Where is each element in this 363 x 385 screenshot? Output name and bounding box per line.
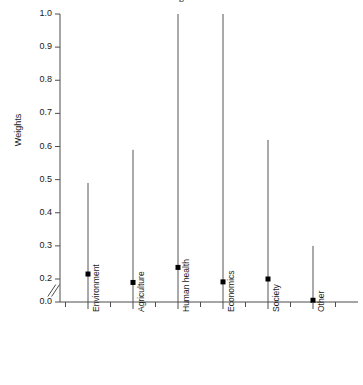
y-tick-label: 0.6 bbox=[26, 142, 52, 151]
y-tick-label: 0.4 bbox=[26, 208, 52, 217]
data-point-marker-1[interactable] bbox=[131, 280, 136, 285]
y-tick-label: 0.9 bbox=[26, 42, 52, 51]
y-tick-label: 0.2 bbox=[26, 274, 52, 283]
y-tick-label: 0.0 bbox=[26, 297, 52, 306]
x-tick-label: Environment bbox=[92, 264, 101, 312]
x-tick-label: Human health bbox=[182, 259, 191, 312]
x-tick-label: Economics bbox=[227, 270, 236, 312]
plot-area bbox=[0, 0, 363, 385]
x-tick-label: Other bbox=[317, 291, 326, 312]
y-tick-label: 0.8 bbox=[26, 75, 52, 84]
y-tick-label: 0.7 bbox=[26, 108, 52, 117]
y-axis-break-icon bbox=[48, 285, 60, 297]
chart-canvas bbox=[0, 0, 363, 385]
chart-figure: b Weights 0.00.20.30.40.50.60.70.80.91.0… bbox=[0, 0, 363, 385]
x-tick-label: Society bbox=[272, 284, 281, 312]
data-point-marker-0[interactable] bbox=[86, 272, 91, 277]
y-tick-label: 1.0 bbox=[26, 9, 52, 18]
data-point-marker-2[interactable] bbox=[176, 265, 181, 270]
x-tick-label: Agriculture bbox=[137, 271, 146, 312]
data-point-marker-3[interactable] bbox=[221, 279, 226, 284]
y-tick-label: 0.3 bbox=[26, 241, 52, 250]
data-point-marker-4[interactable] bbox=[266, 277, 271, 282]
y-tick-label: 0.5 bbox=[26, 175, 52, 184]
